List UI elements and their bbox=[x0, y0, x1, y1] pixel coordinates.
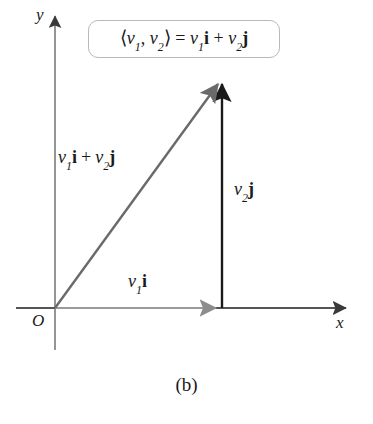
formula-rhs-v2: v bbox=[228, 28, 236, 48]
angle-bracket-open: ⟨ bbox=[120, 27, 127, 48]
formula-equals: = bbox=[175, 28, 185, 48]
vertical-label-j: j bbox=[248, 179, 254, 199]
resultant-label-sub1: 1 bbox=[66, 159, 72, 173]
diagram-canvas bbox=[0, 0, 373, 424]
vertical-component-label: v2j bbox=[234, 180, 254, 201]
resultant-label-sub2: 2 bbox=[103, 159, 109, 173]
formula-text: ⟨v1, v2⟩ = v1i + v2j bbox=[120, 26, 248, 53]
formula-i-hat: i bbox=[204, 28, 209, 48]
formula-v2: v bbox=[150, 28, 158, 48]
horizontal-label-v: v bbox=[128, 271, 136, 291]
formula-j-hat: j bbox=[242, 28, 248, 48]
resultant-label-v2: v bbox=[95, 147, 103, 167]
angle-bracket-close: ⟩ bbox=[164, 27, 171, 48]
formula-sub-1: 1 bbox=[135, 40, 141, 54]
origin-label: O bbox=[32, 312, 44, 329]
horizontal-label-i: i bbox=[142, 271, 147, 291]
formula-rhs-sub-1: 1 bbox=[198, 40, 204, 54]
resultant-label-i: i bbox=[72, 147, 77, 167]
resultant-label-v1: v bbox=[58, 147, 66, 167]
resultant-label-j: j bbox=[109, 147, 115, 167]
vector-diagram-figure: ⟨v1, v2⟩ = v1i + v2j y x O v1i + v2j v1i… bbox=[0, 0, 373, 424]
x-axis-label: x bbox=[336, 314, 344, 331]
horizontal-component-label: v1i bbox=[128, 272, 147, 293]
formula-plus: + bbox=[214, 28, 224, 48]
resultant-label-plus: + bbox=[81, 147, 91, 167]
formula-v1: v bbox=[127, 28, 135, 48]
vertical-label-sub: 2 bbox=[242, 191, 248, 205]
horizontal-label-sub: 1 bbox=[136, 283, 142, 297]
formula-box: ⟨v1, v2⟩ = v1i + v2j bbox=[88, 20, 280, 58]
resultant-vector-label: v1i + v2j bbox=[58, 148, 115, 169]
formula-rhs-sub-2: 2 bbox=[236, 40, 242, 54]
formula-sub-2: 2 bbox=[158, 40, 164, 54]
vertical-label-v: v bbox=[234, 179, 242, 199]
y-axis-label: y bbox=[36, 6, 44, 23]
formula-comma: , bbox=[141, 28, 146, 48]
formula-rhs-v1: v bbox=[190, 28, 198, 48]
figure-caption: (b) bbox=[0, 374, 373, 396]
